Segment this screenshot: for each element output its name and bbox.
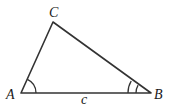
triangle-abc: [21, 22, 151, 93]
angle-a-arc: [27, 79, 36, 93]
vertex-label-c: C: [49, 5, 59, 20]
vertex-label-a: A: [5, 87, 15, 102]
triangle-diagram: A B C c: [0, 0, 171, 106]
angle-b-arc-inner: [136, 85, 138, 93]
angle-b-arc-outer: [128, 81, 131, 93]
vertex-label-b: B: [154, 87, 163, 102]
side-label-c: c: [81, 92, 88, 106]
